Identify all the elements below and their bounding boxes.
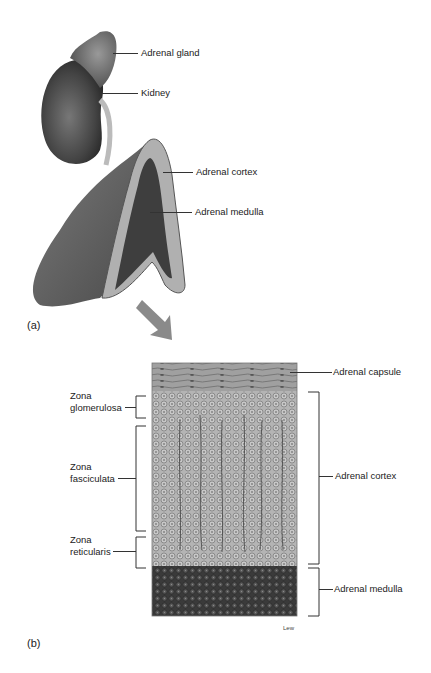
label-adrenal-cortex-a: Adrenal cortex <box>196 166 257 178</box>
leader-line-adrenal-medulla <box>150 212 192 213</box>
panel-tag-b: (b) <box>27 637 40 649</box>
label-adrenal-gland: Adrenal gland <box>141 47 200 59</box>
adrenal-illustration <box>0 0 431 673</box>
label-zona-glomerulosa: Zona glomerulosa <box>70 390 122 414</box>
label-zona-reticularis: Zona reticularis <box>70 534 111 558</box>
histology-section <box>152 363 297 616</box>
leader-line-reticularis <box>113 551 136 552</box>
leader-line-adrenal-cortex <box>163 172 193 173</box>
label-adrenal-medulla-a: Adrenal medulla <box>195 206 264 218</box>
label-adrenal-medulla-b: Adrenal medulla <box>334 583 403 595</box>
label-adrenal-capsule: Adrenal capsule <box>333 366 401 378</box>
leader-line-fasciculata <box>118 478 136 479</box>
sectioned-gland-drawing <box>33 139 185 306</box>
label-zona-fasciculata: Zona fasciculata <box>70 461 115 485</box>
artist-signature: Lew <box>283 622 294 634</box>
leader-line-adrenal-cortex-b <box>319 476 333 477</box>
left-brackets <box>136 396 146 568</box>
right-brackets <box>308 392 319 616</box>
label-kidney: Kidney <box>141 87 170 99</box>
leader-line-glomerulosa <box>125 407 136 408</box>
leader-line-adrenal-gland <box>113 53 138 54</box>
leader-line-kidney <box>100 93 138 94</box>
leader-line-adrenal-medulla-b <box>319 589 333 590</box>
panel-tag-a: (a) <box>27 319 40 331</box>
arrow-icon <box>136 300 172 340</box>
leader-line-adrenal-capsule <box>290 372 332 373</box>
label-adrenal-cortex-b: Adrenal cortex <box>335 470 396 482</box>
